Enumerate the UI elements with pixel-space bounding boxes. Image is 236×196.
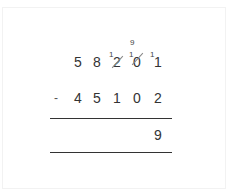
minus-operator: - <box>54 91 58 105</box>
subtrahend-digit-1: 5 <box>92 91 102 105</box>
subtrahend-digit-2: 1 <box>112 91 122 105</box>
subtrahend-digit-4: 2 <box>153 91 163 105</box>
minuend-digit-0: 5 <box>73 55 83 69</box>
subtrahend-digit-3: 0 <box>132 91 142 105</box>
result-rule <box>50 152 172 153</box>
subtraction-rule <box>50 118 172 119</box>
subtrahend-digit-0: 4 <box>73 91 83 105</box>
borrow-annotation: 9 <box>130 39 134 47</box>
minuend-digit-1: 8 <box>92 55 102 69</box>
result-digit-4: 9 <box>153 128 163 142</box>
minuend-digit-4: 1 <box>153 55 163 69</box>
